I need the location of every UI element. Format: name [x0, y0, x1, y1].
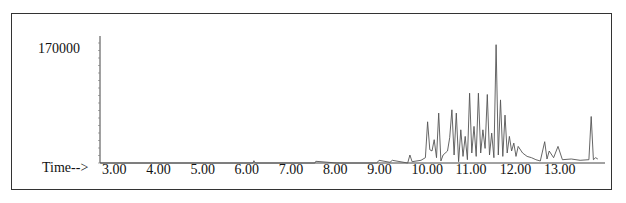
- x-tick-label: 8.00: [323, 162, 348, 178]
- x-tick-label: 11.00: [456, 162, 487, 178]
- x-tick-label: 7.00: [279, 162, 304, 178]
- x-tick-label: 12.00: [500, 162, 532, 178]
- x-tick-label: 10.00: [411, 162, 443, 178]
- x-tick-label: 9.00: [367, 162, 392, 178]
- x-tick-label: 3.00: [102, 162, 127, 178]
- x-tick-label: 13.00: [544, 162, 576, 178]
- y-max-label: 170000: [38, 41, 80, 57]
- x-axis-label: Time-->: [42, 160, 88, 176]
- x-tick-label: 4.00: [146, 162, 171, 178]
- x-tick-label: 6.00: [235, 162, 260, 178]
- chromatogram-plot: [0, 0, 626, 203]
- x-tick-label: 5.00: [190, 162, 215, 178]
